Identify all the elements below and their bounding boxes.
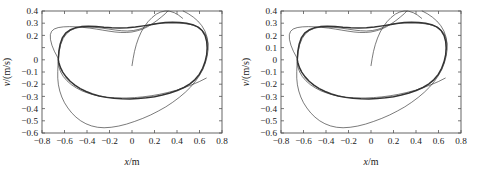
x-tick-label: 0.4 — [410, 136, 422, 146]
x-tick-label: −0.6 — [295, 136, 312, 146]
x-tick-label: −0.2 — [101, 136, 118, 146]
y-tick-label: −0.4 — [21, 104, 38, 114]
y-tick-label: 0.4 — [266, 6, 278, 16]
y-tick-label: 0 — [272, 55, 277, 65]
x-axis-title: x/m — [362, 156, 378, 167]
y-tick-label: −0.4 — [260, 104, 277, 114]
y-tick-label: −0.3 — [260, 92, 277, 102]
y-tick-label: 0.2 — [27, 31, 39, 41]
left-panel-frame — [42, 11, 222, 133]
x-tick-label: −0.2 — [340, 136, 357, 146]
x-tick-label: 0.4 — [171, 136, 183, 146]
y-tick-label: 0.4 — [27, 6, 39, 16]
right-panel: −0.8−0.6−0.4−0.200.20.40.60.80.40.30.20.… — [239, 0, 478, 174]
y-axis-title: v/(m/s) — [240, 58, 252, 86]
y-tick-label: 0.1 — [266, 43, 278, 53]
y-tick-label: −0.6 — [260, 128, 277, 138]
x-tick-label: −0.4 — [79, 136, 96, 146]
y-tick-label: −0.2 — [260, 79, 277, 89]
right-panel-frame — [281, 11, 461, 133]
y-tick-label: 0 — [33, 55, 38, 65]
left-panel: −0.8−0.6−0.4−0.200.20.40.60.80.40.30.20−… — [0, 0, 239, 174]
y-tick-label: 0.2 — [266, 31, 278, 41]
x-tick-label: 0.6 — [194, 136, 206, 146]
y-tick-label: −0.5 — [260, 116, 277, 126]
y-tick-label: −0.2 — [21, 79, 38, 89]
x-tick-label: 0.2 — [149, 136, 161, 146]
y-tick-label: 0.3 — [266, 18, 278, 28]
x-tick-label: 0 — [130, 136, 135, 146]
x-tick-label: −0.6 — [56, 136, 73, 146]
y-tick-label: −0.3 — [21, 92, 38, 102]
x-tick-label: 0.8 — [455, 136, 467, 146]
x-tick-label: 0.8 — [216, 136, 228, 146]
x-tick-label: 0.2 — [388, 136, 400, 146]
x-tick-label: −0.4 — [318, 136, 335, 146]
y-axis-title: v/(m/s) — [1, 58, 13, 86]
x-axis-title: x/m — [123, 156, 139, 167]
y-tick-label: 0.3 — [27, 18, 39, 28]
x-tick-label: 0.6 — [433, 136, 445, 146]
right-panel-plot: −0.8−0.6−0.4−0.200.20.40.60.80.40.30.20.… — [239, 0, 478, 174]
phase-portrait-figure: −0.8−0.6−0.4−0.200.20.40.60.80.40.30.20−… — [0, 0, 478, 174]
y-tick-label: −0.5 — [21, 116, 38, 126]
y-tick-label: −0.6 — [21, 128, 38, 138]
left-panel-plot: −0.8−0.6−0.4−0.200.20.40.60.80.40.30.20−… — [0, 0, 239, 174]
y-tick-label: −0.1 — [260, 67, 277, 77]
y-tick-label: −0.1 — [21, 67, 38, 77]
x-tick-label: 0 — [369, 136, 374, 146]
